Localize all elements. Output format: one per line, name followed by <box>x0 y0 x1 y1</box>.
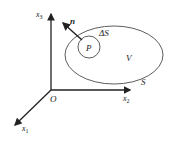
volume-label: V <box>126 53 133 63</box>
surface-label: S <box>141 77 146 87</box>
diagram-canvas: x3 x2 x1 O n P ΔS V S <box>0 0 173 146</box>
region-boundary-s <box>65 26 163 84</box>
area-element-label: ΔS <box>98 28 109 38</box>
x3-axis-label: x3 <box>35 10 43 20</box>
origin-label: O <box>50 94 57 104</box>
x1-axis-label: x1 <box>21 124 29 134</box>
normal-label: n <box>70 16 75 26</box>
x1-axis <box>15 90 51 125</box>
x2-axis-label: x2 <box>122 94 130 104</box>
point-label: P <box>85 43 92 53</box>
